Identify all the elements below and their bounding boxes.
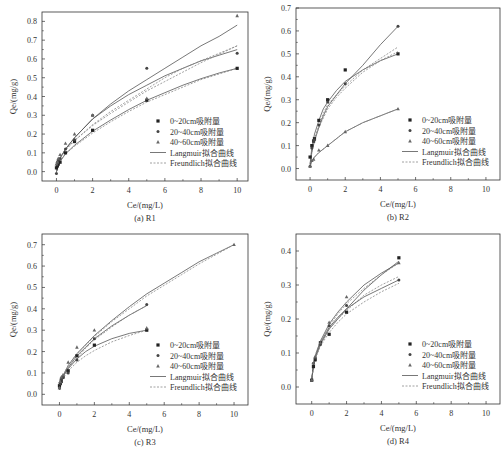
data-point-circle xyxy=(310,146,313,149)
data-point-square xyxy=(408,118,411,121)
data-point-circle xyxy=(397,278,400,281)
data-point-square xyxy=(156,343,159,346)
data-point-triangle xyxy=(396,107,400,110)
data-point-circle xyxy=(157,130,160,133)
data-point-circle xyxy=(345,304,348,307)
data-point-triangle xyxy=(145,326,149,329)
subplot-r1: 02468100.00.10.20.30.40.50.60.70.8Ce/(mg… xyxy=(8,12,248,223)
x-tick-label: 8 xyxy=(197,410,201,419)
x-tick-label: 10 xyxy=(230,410,238,419)
y-tick-label: 0.4 xyxy=(27,93,37,102)
subplot-caption: (b) R2 xyxy=(387,212,409,222)
x-tick-label: 6 xyxy=(163,186,167,195)
data-point-circle xyxy=(409,353,412,356)
y-axis-label: Qe/(mg/g) xyxy=(8,302,18,338)
y-axis-label: Qe/(mg/g) xyxy=(8,79,18,115)
y-tick-label: 0.7 xyxy=(27,241,37,250)
y-tick-label: 0.6 xyxy=(27,262,37,271)
y-tick-label: 0.7 xyxy=(281,4,291,13)
y-axis-label: Qe/(mg/g) xyxy=(262,76,272,112)
data-point-circle xyxy=(317,123,320,126)
x-tick-label: 0 xyxy=(308,185,312,194)
y-tick-label: 0.3 xyxy=(281,96,291,105)
data-point-square xyxy=(91,129,94,132)
data-point-circle xyxy=(64,148,67,151)
langmuir-fit-curve xyxy=(310,54,398,164)
legend-label: 20~40cm吸附量 xyxy=(170,351,224,361)
legend-label: 40~60cm吸附量 xyxy=(422,360,476,370)
x-tick-label: 10 xyxy=(482,185,490,194)
data-point-triangle xyxy=(232,243,236,246)
figure: 02468100.00.10.20.30.40.50.60.70.8Ce/(mg… xyxy=(0,0,504,457)
y-tick-label: 0.0 xyxy=(281,165,291,174)
freundlich-fit-curve xyxy=(312,263,399,380)
y-tick-label: 0.5 xyxy=(281,50,291,59)
x-tick-label: 0 xyxy=(57,410,61,419)
x-tick-label: 0 xyxy=(310,409,314,418)
x-tick-label: 2 xyxy=(92,410,96,419)
data-point-square xyxy=(345,311,348,314)
legend-label: Freundlich拟合曲线 xyxy=(170,158,237,168)
legend-label: Freundlich拟合曲线 xyxy=(422,381,489,391)
subplot-caption: (c) R3 xyxy=(134,437,155,447)
y-tick-label: 0.0 xyxy=(27,390,37,399)
data-point-triangle xyxy=(156,364,160,367)
langmuir-fit-curve xyxy=(312,280,399,380)
legend-label: Langmuir拟合曲线 xyxy=(170,148,234,158)
data-point-triangle xyxy=(66,360,70,363)
data-point-square xyxy=(236,67,239,70)
x-tick-label: 4 xyxy=(127,186,131,195)
y-tick-label: 0.3 xyxy=(281,281,291,290)
legend-label: 40~60cm吸附量 xyxy=(170,137,224,147)
y-tick-label: 0.5 xyxy=(27,74,37,83)
data-point-triangle xyxy=(326,144,330,147)
legend-label: 0~20cm吸附量 xyxy=(422,339,472,349)
x-tick-label: 8 xyxy=(199,186,203,195)
data-point-triangle xyxy=(58,153,62,156)
data-point-square xyxy=(156,119,159,122)
data-point-triangle xyxy=(145,96,149,99)
data-point-square xyxy=(93,344,96,347)
legend-label: 40~60cm吸附量 xyxy=(170,361,224,371)
data-point-circle xyxy=(326,101,329,104)
data-point-square xyxy=(328,333,331,336)
data-point-triangle xyxy=(408,139,412,142)
data-point-circle xyxy=(67,371,70,374)
y-tick-label: 0.0 xyxy=(281,383,291,392)
data-point-square xyxy=(396,52,399,55)
subplot-r4: 02468100.00.10.20.30.4Ce/(mg/L)Qe/(mg/g)… xyxy=(262,234,500,446)
y-tick-label: 0.2 xyxy=(27,348,37,357)
y-tick-label: 0.2 xyxy=(281,119,291,128)
freundlich-fit-curve xyxy=(312,277,399,381)
data-point-circle xyxy=(409,129,412,132)
subplot-caption: (a) R1 xyxy=(134,213,155,223)
data-point-circle xyxy=(157,354,160,357)
legend-label: 0~20cm吸附量 xyxy=(422,115,472,125)
y-tick-label: 0.4 xyxy=(281,73,291,82)
legend-label: Langmuir拟合曲线 xyxy=(170,372,234,382)
x-tick-label: 6 xyxy=(414,185,418,194)
legend-label: 0~20cm吸附量 xyxy=(170,116,220,126)
data-point-square xyxy=(317,119,320,122)
x-tick-label: 4 xyxy=(378,185,382,194)
data-point-triangle xyxy=(345,295,349,298)
data-point-square xyxy=(397,256,400,259)
langmuir-fit-curve xyxy=(60,306,147,390)
data-point-square xyxy=(408,342,411,345)
data-point-square xyxy=(64,151,67,154)
y-tick-label: 0.8 xyxy=(27,17,37,26)
x-tick-label: 6 xyxy=(414,409,418,418)
data-point-square xyxy=(308,155,311,158)
data-point-triangle xyxy=(312,157,316,160)
data-point-triangle xyxy=(156,140,160,143)
data-point-triangle xyxy=(93,328,97,331)
data-point-circle xyxy=(55,172,58,175)
y-tick-label: 0.4 xyxy=(27,305,37,314)
legend-label: 20~40cm吸附量 xyxy=(422,350,476,360)
y-tick-label: 0.6 xyxy=(27,55,37,64)
y-tick-label: 0.1 xyxy=(281,142,291,151)
data-point-circle xyxy=(313,138,316,141)
data-point-square xyxy=(75,354,78,357)
legend-label: 40~60cm吸附量 xyxy=(422,136,476,146)
x-tick-label: 8 xyxy=(449,185,453,194)
